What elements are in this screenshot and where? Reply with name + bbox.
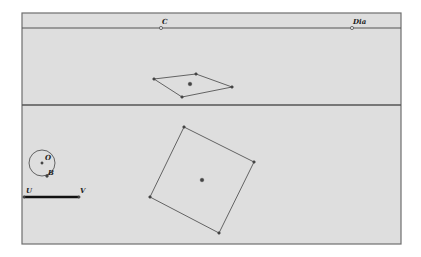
label-c: C: [162, 17, 168, 26]
rhombus-center[interactable]: [188, 82, 192, 86]
point-c[interactable]: [159, 26, 162, 29]
square-vertex[interactable]: [183, 126, 186, 129]
square-vertex[interactable]: [253, 161, 256, 164]
point-dia[interactable]: [350, 26, 353, 29]
square-center[interactable]: [200, 178, 204, 182]
label-u: U: [26, 186, 33, 195]
point-v[interactable]: [78, 196, 80, 198]
drawing-frame: [22, 13, 401, 244]
circle-center-o[interactable]: [41, 162, 43, 164]
label-o: O: [45, 153, 52, 162]
point-u[interactable]: [23, 196, 25, 198]
rhombus-vertex[interactable]: [181, 96, 184, 99]
frame-panel: [22, 13, 401, 244]
segment-uv[interactable]: [23, 196, 80, 198]
rhombus-vertex[interactable]: [195, 73, 198, 76]
label-dia: Dia: [352, 17, 367, 26]
rhombus-vertex[interactable]: [231, 86, 234, 89]
label-b: B: [47, 168, 54, 177]
rhombus-vertex[interactable]: [153, 78, 156, 81]
square-vertex[interactable]: [149, 196, 152, 199]
geometry-canvas[interactable]: C Dia O B U V: [0, 0, 421, 257]
square-vertex[interactable]: [218, 232, 221, 235]
